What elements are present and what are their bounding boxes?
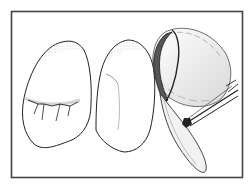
dental-mirror <box>153 28 231 106</box>
dental-illustration <box>0 0 250 186</box>
left-tooth <box>22 41 91 147</box>
right-tooth <box>96 40 155 152</box>
